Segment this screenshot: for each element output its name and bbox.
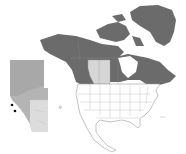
- location-marker-2: [14, 110, 17, 113]
- locator-map: [0, 0, 186, 154]
- location-marker-1: [11, 104, 14, 107]
- alberta-inset: [10, 60, 48, 132]
